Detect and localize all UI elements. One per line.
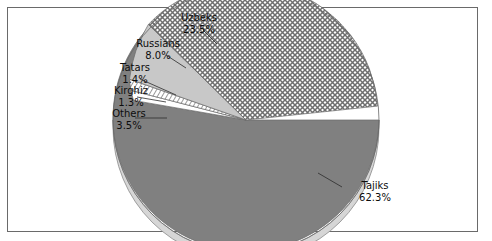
pie-label-uzbeks-name: Uzbeks [163, 12, 235, 24]
pie-label-russians: Russians 8.0% [122, 38, 194, 61]
pie-label-kirghiz-value: 1.3% [100, 97, 162, 109]
pie-label-tajiks-value: 62.3% [344, 192, 406, 204]
pie-label-others-name: Others [98, 108, 160, 120]
pie-label-uzbeks-value: 23.5% [163, 24, 235, 36]
pie-label-tajiks-name: Tajiks [344, 180, 406, 192]
pie-label-others-value: 3.5% [98, 120, 160, 132]
pie-chart [0, 0, 492, 241]
pie-label-tatars-value: 1.4% [104, 74, 166, 86]
pie-label-kirghiz-name: Kirghiz [100, 85, 162, 97]
pie-label-others: Others 3.5% [98, 108, 160, 131]
pie-label-tatars-name: Tatars [104, 62, 166, 74]
pie-label-kirghiz: Kirghiz 1.3% [100, 85, 162, 108]
pie-label-uzbeks: Uzbeks 23.5% [163, 12, 235, 35]
pie-label-tajiks: Tajiks 62.3% [344, 180, 406, 203]
chart-canvas: 2000 [0, 0, 492, 241]
pie-label-tatars: Tatars 1.4% [104, 62, 166, 85]
pie-label-russians-value: 8.0% [122, 50, 194, 62]
pie-label-russians-name: Russians [122, 38, 194, 50]
